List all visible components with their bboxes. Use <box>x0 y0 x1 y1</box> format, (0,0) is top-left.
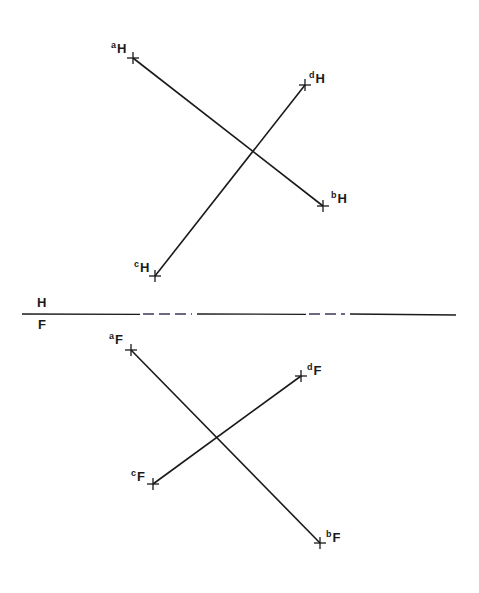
point-label-bh: bH <box>331 190 347 206</box>
frontal-view <box>125 344 326 549</box>
projection-diagram <box>0 0 479 593</box>
point-label-bf: bF <box>326 529 340 545</box>
fold-line-solid <box>350 314 456 315</box>
plane-label-f: F <box>38 318 46 331</box>
horizontal-view <box>127 52 329 282</box>
point-label-dh: dH <box>309 70 325 86</box>
line-ab-f <box>131 350 320 543</box>
point-label-ch: cH <box>134 259 149 275</box>
point-label-ah: aH <box>111 40 126 56</box>
point-label-cf: cF <box>131 468 145 484</box>
line-cd-f <box>153 376 301 484</box>
point-label-af: aF <box>109 331 123 347</box>
plane-label-h: H <box>37 296 46 309</box>
point-label-df: dF <box>307 362 321 378</box>
fold-line <box>22 314 456 315</box>
point-marker-df <box>295 370 307 382</box>
point-marker-cf <box>147 478 159 490</box>
line-cd-h <box>155 85 305 276</box>
